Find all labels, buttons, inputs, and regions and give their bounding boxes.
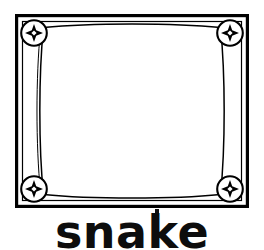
medallion-bottom-right [217, 176, 243, 202]
decorative-frame-illustration [0, 0, 264, 212]
medallion-bottom-left [21, 176, 47, 202]
caption-label: snake [0, 209, 264, 250]
bowed-inner-panel [40, 24, 224, 198]
medallion-top-right [217, 20, 243, 46]
medallion-top-left [21, 20, 47, 46]
illustration-page: snake [0, 0, 264, 250]
